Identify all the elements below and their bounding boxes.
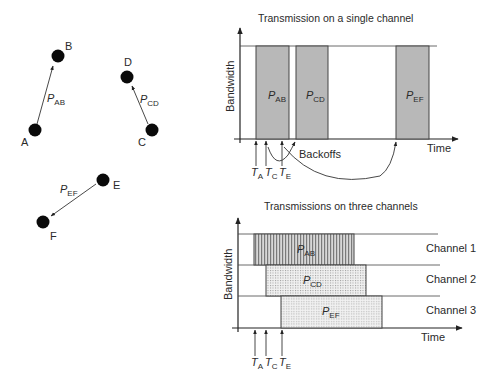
node-b-label: B xyxy=(65,40,72,52)
diagram-canvas: A B C D E F PAB PCD PEF Transmission on … xyxy=(0,0,487,387)
single-ta-label: TA xyxy=(251,166,264,181)
single-te-label: TE xyxy=(279,166,291,181)
three-y-label: Bandwidth xyxy=(222,249,234,300)
link-c-d-arrow xyxy=(132,86,148,124)
channel-3-label: Channel 3 xyxy=(426,304,476,316)
single-x-label: Time xyxy=(427,142,451,154)
link-e-f-label: PEF xyxy=(60,183,78,198)
node-f-label: F xyxy=(50,230,57,242)
node-c-label: C xyxy=(138,136,146,148)
channel-1-label: Channel 1 xyxy=(426,242,476,254)
node-c xyxy=(146,124,159,137)
node-f xyxy=(37,216,50,229)
node-a xyxy=(29,124,42,137)
node-d xyxy=(121,71,134,84)
node-a-label: A xyxy=(21,136,29,148)
backoffs-label: Backoffs xyxy=(299,148,341,160)
node-e xyxy=(97,174,110,187)
backoff-c-curve xyxy=(268,142,295,161)
three-channel-title: Transmissions on three channels xyxy=(264,200,418,212)
node-e-label: E xyxy=(113,179,120,191)
single-channel-chart: Transmission on a single channel Bandwid… xyxy=(224,12,458,181)
three-ta-label: TA xyxy=(251,356,264,371)
network-topology: A B C D E F PAB PCD PEF xyxy=(21,40,159,242)
three-te-label: TE xyxy=(279,356,291,371)
link-c-d-label: PCD xyxy=(140,93,159,108)
three-tc-label: TC xyxy=(265,356,278,371)
single-y-label: Bandwidth xyxy=(224,61,236,112)
node-d-label: D xyxy=(124,56,132,68)
node-b xyxy=(52,50,65,63)
link-a-b-label: PAB xyxy=(47,92,65,107)
single-tc-label: TC xyxy=(265,166,278,181)
channel-2-label: Channel 2 xyxy=(426,273,476,285)
three-channel-chart: Transmissions on three channels Bandwidt… xyxy=(222,200,476,371)
three-x-label: Time xyxy=(421,331,445,343)
single-channel-title: Transmission on a single channel xyxy=(258,12,413,24)
